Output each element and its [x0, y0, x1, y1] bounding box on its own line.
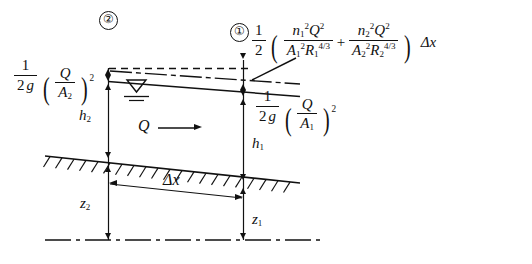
- discharge-arrowhead: [194, 124, 202, 130]
- friction-loss-coefficient: 1 2: [252, 22, 266, 59]
- friction-term-2: n22Q2 A22R24/3: [349, 22, 398, 59]
- friction-term-1: n12Q2 A12R14/3: [284, 22, 333, 59]
- depth-1-label: h1: [252, 136, 264, 151]
- depth-2-label: h2: [79, 108, 91, 123]
- velocity-head-1-label: 1 2g ( Q A1 )2: [256, 88, 336, 135]
- velocity-head-1-ratio: Q A1: [297, 96, 317, 133]
- formula-open-paren: (: [271, 30, 278, 62]
- elevation-2-label: z2: [80, 196, 90, 211]
- section-2-marker: ②: [99, 11, 118, 30]
- velocity-head-2-arrowhead-down: [105, 75, 111, 81]
- depth-1-arrowhead-up: [240, 99, 246, 105]
- velocity-head-1-exponent: 2: [331, 104, 336, 114]
- reach-length-label: Δx: [163, 172, 180, 188]
- elevation-2-arrowhead-down: [105, 233, 111, 239]
- energy-grade-line: [110, 71, 300, 84]
- discharge-label: Q: [138, 118, 150, 134]
- depth-2-arrowhead-up: [105, 84, 111, 90]
- depth-1-arrowhead-down: [240, 174, 246, 180]
- formula-close-paren: ): [404, 30, 411, 62]
- section-1-top-arrowhead-down: [240, 53, 246, 59]
- section-1-marker: ①: [230, 23, 249, 42]
- friction-loss-formula: 1 2 ( n12Q2 A12R14/3 + n22Q2 A22R24/3 ) …: [252, 22, 436, 62]
- velocity-head-2-ratio: Q A2: [55, 65, 75, 102]
- diagram-canvas: ② ① 1 2 ( n12Q2 A12R14/3 + n22Q2 A22R24/…: [0, 0, 532, 264]
- velocity-head-2-label: 1 2g ( Q A2 )2: [14, 57, 94, 104]
- reach-length-arrowhead-right: [235, 194, 243, 200]
- elevation-2-arrowhead-up: [105, 166, 111, 172]
- reach-length-arrowhead-left: [109, 180, 117, 186]
- velocity-head-2-group: ( Q A2 )2: [41, 65, 94, 105]
- depth-2-arrowhead-down: [105, 152, 111, 158]
- elevation-1-arrowhead-down: [240, 233, 246, 239]
- formula-reach-length: Δx: [421, 34, 436, 50]
- velocity-head-1-arrowhead-down: [240, 90, 246, 96]
- elevation-1-label: z1: [252, 212, 262, 227]
- velocity-head-2-fraction: 1 2g: [14, 57, 37, 94]
- velocity-head-1-fraction: 1 2g: [256, 88, 279, 125]
- formula-plus-sign: +: [337, 34, 345, 50]
- velocity-head-1-group: ( Q A1 )2: [283, 96, 336, 136]
- velocity-head-2-exponent: 2: [89, 73, 94, 83]
